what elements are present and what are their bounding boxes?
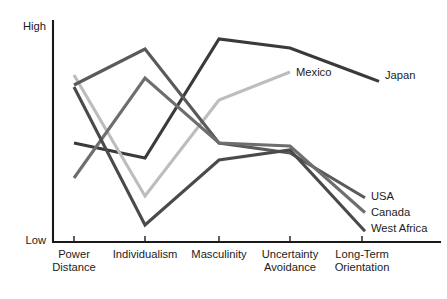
x-category-label-3: Uncertainty: [262, 248, 319, 260]
series-label-west-africa: West Africa: [371, 222, 428, 234]
x-category-label-4: Long-Term: [335, 248, 388, 260]
x-category-label-3: Avoidance: [264, 261, 316, 273]
series-label-japan: Japan: [385, 69, 415, 81]
x-category-label-2: Masculinity: [191, 248, 247, 260]
chart-plot-area: HighLowPowerDistanceIndividualismMasculi…: [0, 0, 447, 299]
y-axis-high-label: High: [23, 20, 46, 32]
x-category-label-0: Power: [58, 248, 90, 260]
series-label-canada: Canada: [371, 206, 411, 218]
x-category-label-0: Distance: [52, 261, 96, 273]
chart-series-lines: [74, 39, 379, 231]
x-category-label-1: Individualism: [113, 248, 178, 260]
series-line-west-africa: [74, 87, 365, 231]
x-category-label-4: Orientation: [335, 261, 390, 273]
series-label-mexico: Mexico: [296, 66, 331, 78]
cultural-dimensions-chart: HighLowPowerDistanceIndividualismMasculi…: [0, 0, 447, 299]
y-axis-low-label: Low: [25, 234, 46, 246]
series-label-usa: USA: [371, 190, 395, 202]
